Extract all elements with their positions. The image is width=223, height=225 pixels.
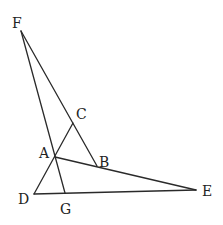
point-label-b: B (99, 154, 109, 170)
point-label-c: C (76, 106, 87, 122)
geometry-diagram: FCABDGE (0, 0, 223, 225)
segment-de (34, 190, 196, 194)
segment-fb (21, 31, 97, 166)
diagram-svg: FCABDGE (0, 0, 223, 225)
point-label-a: A (38, 145, 50, 161)
segment-ae (55, 157, 196, 190)
point-label-f: F (12, 15, 22, 31)
segment-fg (21, 31, 65, 193)
point-label-d: D (18, 191, 29, 207)
point-label-e: E (202, 183, 212, 199)
point-label-g: G (60, 201, 71, 217)
